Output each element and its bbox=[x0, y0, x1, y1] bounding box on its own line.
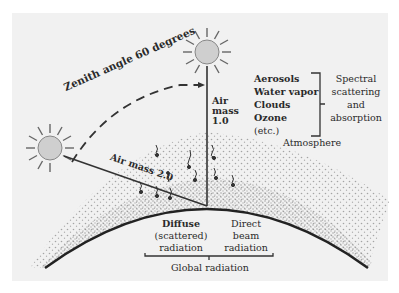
effect-line2: scattering bbox=[326, 85, 386, 98]
diffuse-line3: radiation bbox=[148, 242, 214, 254]
effect-line1: Spectral bbox=[326, 72, 386, 85]
effect-line4: absorption bbox=[326, 111, 386, 124]
constituent-ozone: Ozone bbox=[254, 111, 318, 124]
air-mass-1-line3: 1.0 bbox=[212, 116, 239, 126]
constituent-clouds: Clouds bbox=[254, 98, 318, 111]
air-mass-1-label: Air mass 1.0 bbox=[212, 96, 239, 126]
diffuse-line1: Diffuse bbox=[148, 218, 214, 230]
atmosphere-label: Atmosphere bbox=[283, 138, 341, 148]
effect-label: Spectral scattering and absorption bbox=[326, 72, 386, 124]
diffuse-radiation-label: Diffuse (scattered) radiation bbox=[148, 218, 214, 254]
sun-oblique-icon bbox=[26, 124, 74, 172]
constituent-water-vapor: Water vapor bbox=[254, 85, 318, 98]
constituent-etc: (etc.) bbox=[254, 124, 318, 137]
constituents-list: Aerosols Water vapor Clouds Ozone (etc.) bbox=[254, 72, 318, 137]
direct-line1: Direct bbox=[216, 218, 276, 230]
global-radiation-label: Global radiation bbox=[171, 263, 249, 273]
effect-line3: and bbox=[326, 98, 386, 111]
global-radiation-bracket bbox=[145, 253, 273, 260]
direct-radiation-label: Direct beam radiation bbox=[216, 218, 276, 254]
direct-line2: beam bbox=[216, 230, 276, 242]
constituent-aerosols: Aerosols bbox=[254, 72, 318, 85]
direct-line3: radiation bbox=[216, 242, 276, 254]
arc-arrowhead-icon bbox=[198, 82, 205, 88]
diffuse-line2: (scattered) bbox=[148, 230, 214, 242]
